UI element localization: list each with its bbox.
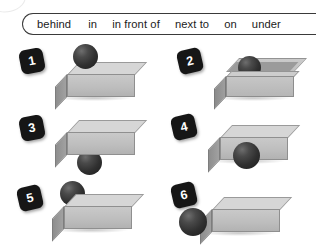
box-top-face <box>64 194 144 207</box>
box-top-face <box>67 120 147 133</box>
item-number-badge-6: 6 <box>170 181 199 210</box>
item-number-label: 2 <box>185 54 195 68</box>
item-number-label: 5 <box>25 191 35 205</box>
word-on[interactable]: on <box>224 18 237 30</box>
box-left-face <box>55 132 67 168</box>
exercise-item-6[interactable]: 6 <box>158 176 316 245</box>
item-number-label: 6 <box>179 188 189 202</box>
box-left-face <box>214 76 226 110</box>
item-number-label: 1 <box>27 54 36 68</box>
scan-artifact-icon <box>0 0 28 16</box>
exercise-item-3[interactable]: 3 <box>0 107 158 176</box>
box-front-face <box>67 132 135 155</box>
box-left-face <box>55 74 67 110</box>
item-number-badge-1: 1 <box>18 47 46 75</box>
exercise-item-5[interactable]: 5 <box>0 176 158 245</box>
box-top-face <box>220 125 300 138</box>
item-number-label: 3 <box>27 121 36 135</box>
exercise-items: 1 2 <box>0 40 316 248</box>
box-front-face <box>64 206 132 229</box>
box-top-face <box>212 197 292 210</box>
ball-shape-6 <box>179 208 207 236</box>
box-left-face <box>52 206 64 242</box>
ball-shape-1 <box>73 44 98 69</box>
box-front-face <box>212 209 280 232</box>
box-front-face <box>226 76 294 97</box>
item-number-badge-2: 2 <box>176 47 205 76</box>
item-number-badge-3: 3 <box>18 114 46 142</box>
preposition-word-bank: behind in in front of next to on under <box>22 13 316 35</box>
word-in[interactable]: in <box>88 18 97 30</box>
word-behind[interactable]: behind <box>37 18 71 30</box>
box-left-face <box>208 137 220 173</box>
ball-shape-4 <box>233 142 260 169</box>
word-next-to[interactable]: next to <box>175 18 209 30</box>
exercise-page: behind in in front of next to on under 1 <box>0 0 316 248</box>
exercise-item-4[interactable]: 4 <box>158 107 316 176</box>
exercise-item-2[interactable]: 2 <box>158 40 316 109</box>
word-under[interactable]: under <box>252 18 281 30</box>
word-bank-list: behind in in front of next to on under <box>23 18 296 30</box>
box-front-face <box>67 74 135 97</box>
item-number-label: 4 <box>179 120 189 134</box>
word-in-front-of[interactable]: in front of <box>112 18 160 30</box>
exercise-item-1[interactable]: 1 <box>0 40 158 109</box>
item-number-badge-5: 5 <box>16 184 45 213</box>
item-number-badge-4: 4 <box>170 113 199 142</box>
